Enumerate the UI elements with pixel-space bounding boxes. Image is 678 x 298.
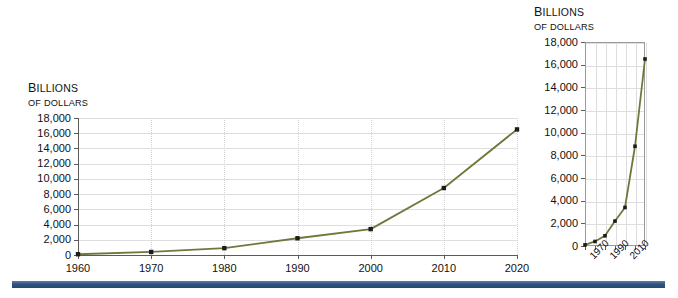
data-point-marker — [623, 206, 627, 210]
inset-chart-series-line — [585, 42, 645, 246]
y-tick-label: 4,000 — [25, 219, 71, 230]
y-tick-label: 14,000 — [532, 82, 578, 93]
series-polyline — [78, 129, 517, 254]
data-point-marker — [149, 250, 153, 254]
y-tick-label: 0 — [532, 241, 578, 252]
x-tick-label: 1990 — [276, 263, 320, 274]
y-tick-label: 8,000 — [532, 150, 578, 161]
y-tick-label: 14,000 — [25, 143, 71, 154]
y-tick-label: 18,000 — [532, 37, 578, 48]
data-point-marker — [368, 227, 372, 231]
y-tick-label: 10,000 — [25, 173, 71, 184]
inset-chart-y-axis-title: BILLIONS OF DOLLARS — [534, 4, 594, 33]
x-tick-label: 1960 — [56, 263, 100, 274]
y-tick-label: 2,000 — [25, 234, 71, 245]
x-tick — [298, 255, 299, 259]
data-point-marker — [603, 234, 607, 238]
main-chart-y-axis-title-line2: OF DOLLARS — [28, 97, 88, 109]
data-point-marker — [613, 219, 617, 223]
data-point-marker — [633, 144, 637, 148]
main-chart: BILLIONS OF DOLLARS 18,00016,00014,00012… — [0, 0, 528, 275]
y-tick-label: 10,000 — [532, 127, 578, 138]
gridline-vertical — [517, 118, 519, 255]
y-tick-label: 6,000 — [532, 173, 578, 184]
x-tick-label: 1980 — [202, 263, 246, 274]
y-tick-label: 18,000 — [25, 113, 71, 124]
data-point-marker — [515, 127, 519, 131]
y-tick-label: 12,000 — [532, 105, 578, 116]
x-tick — [444, 255, 445, 259]
data-point-marker — [295, 236, 299, 240]
inset-chart-y-axis-title-line2: OF DOLLARS — [534, 21, 594, 33]
main-chart-series-line — [78, 118, 517, 255]
x-tick — [371, 255, 372, 259]
inset-chart: BILLIONS OF DOLLARS 18,00016,00014,00012… — [528, 0, 678, 275]
data-point-marker — [643, 57, 647, 61]
y-tick-label: 16,000 — [25, 128, 71, 139]
x-tick — [517, 255, 518, 259]
y-tick-label: 16,000 — [532, 59, 578, 70]
y-tick-label: 12,000 — [25, 158, 71, 169]
main-chart-y-axis-title-line1: BILLIONS — [28, 80, 88, 97]
y-tick-label: 2,000 — [532, 218, 578, 229]
x-tick — [224, 255, 225, 259]
y-tick-label: 0 — [25, 250, 71, 261]
x-tick-label: 1970 — [129, 263, 173, 274]
data-point-marker — [442, 186, 446, 190]
gridline-vertical — [646, 43, 647, 245]
inset-chart-y-axis-title-line1: BILLIONS — [534, 4, 594, 21]
data-point-marker — [583, 243, 587, 247]
bottom-divider-bar — [12, 281, 665, 288]
data-point-marker — [222, 246, 226, 250]
y-tick-label: 8,000 — [25, 189, 71, 200]
x-tick-label: 2010 — [422, 263, 466, 274]
main-chart-y-axis-title: BILLIONS OF DOLLARS — [28, 80, 88, 109]
x-tick — [151, 255, 152, 259]
y-tick-label: 6,000 — [25, 204, 71, 215]
data-point-marker — [593, 240, 597, 244]
y-tick-label: 4,000 — [532, 195, 578, 206]
x-tick-label: 2000 — [349, 263, 393, 274]
data-point-marker — [76, 252, 80, 256]
series-polyline — [585, 59, 645, 245]
